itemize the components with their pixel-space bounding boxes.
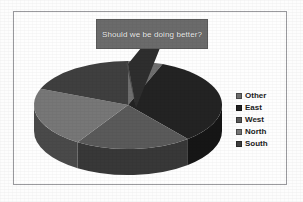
pie-top-faces bbox=[34, 61, 222, 149]
legend-item-east[interactable]: East bbox=[236, 102, 284, 113]
legend-label-east: East bbox=[245, 103, 262, 112]
legend-item-west[interactable]: West bbox=[236, 114, 284, 125]
callout-box[interactable]: Should we be doing better? bbox=[96, 19, 208, 49]
chart-legend[interactable]: Other East West North South bbox=[236, 90, 284, 150]
legend-swatch-east bbox=[236, 105, 242, 111]
legend-item-north[interactable]: North bbox=[236, 126, 284, 137]
legend-swatch-other bbox=[236, 93, 242, 99]
legend-item-other[interactable]: Other bbox=[236, 90, 284, 101]
chart-canvas: Should we be doing better? Other East We… bbox=[0, 0, 303, 202]
legend-swatch-south bbox=[236, 141, 242, 147]
legend-item-south[interactable]: South bbox=[236, 138, 284, 149]
legend-label-south: South bbox=[245, 139, 268, 148]
legend-swatch-west bbox=[236, 117, 242, 123]
legend-label-north: North bbox=[245, 127, 266, 136]
legend-label-other: Other bbox=[245, 91, 266, 100]
callout-label: Should we be doing better? bbox=[102, 30, 202, 39]
legend-label-west: West bbox=[245, 115, 264, 124]
legend-swatch-north bbox=[236, 129, 242, 135]
